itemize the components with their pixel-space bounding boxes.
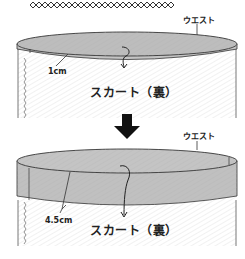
skirt-waist-fold-diagram: ウエスト 1cm スカート（裏） ウエスト 4.5cm スカート（裏） [0, 0, 245, 259]
top-fold-width-label: 1cm [48, 67, 67, 76]
bottom-fold-width-label: 4.5cm [45, 216, 72, 225]
top-waist-label: ウエスト [183, 14, 215, 25]
zigzag-stitch-top [30, 2, 174, 8]
bottom-skirt-label: スカート（裏） [90, 221, 178, 238]
bottom-waist-label: ウエスト [183, 130, 215, 141]
top-skirt-label: スカート（裏） [90, 83, 178, 100]
